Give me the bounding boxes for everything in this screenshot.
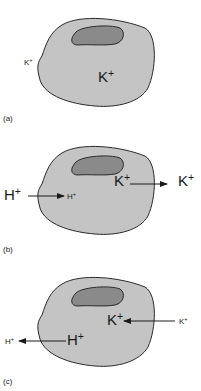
cell-ion-exchange-diagram: K+ K+ (a) H+ H+ K+ K+ (b) K+ K+ H+ H+ (c… <box>0 0 201 391</box>
h-ion-outside-label: H+ <box>5 336 14 346</box>
panel-b: H+ H+ K+ K+ (b) <box>3 146 194 254</box>
panel-label: (c) <box>3 377 13 386</box>
k-ion-outside-label: K+ <box>178 171 194 189</box>
panel-label: (b) <box>3 245 13 254</box>
k-ion-outside-label: K+ <box>179 316 188 326</box>
outside-ion-label: K+ <box>24 57 33 67</box>
panel-c: K+ K+ H+ H+ (c) <box>3 277 188 386</box>
panel-label: (a) <box>3 114 13 123</box>
h-ion-outside-label: H+ <box>4 185 21 203</box>
panel-a: K+ K+ (a) <box>3 18 154 123</box>
